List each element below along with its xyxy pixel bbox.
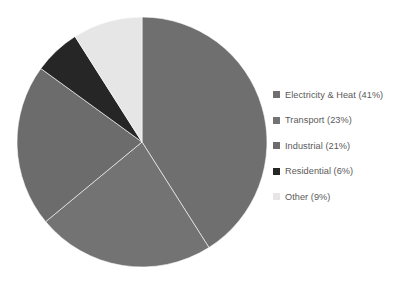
legend-swatch-residential xyxy=(273,168,280,175)
legend-item-residential: Residential (6%) xyxy=(273,159,413,185)
legend-item-transport: Transport (23%) xyxy=(273,108,413,134)
legend-swatch-other xyxy=(273,193,280,200)
pie-chart-plot-area xyxy=(0,0,285,283)
pie-chart-svg xyxy=(0,0,285,283)
legend-label-electricity-heat: Electricity & Heat (41%) xyxy=(285,90,383,100)
legend-item-electricity-heat: Electricity & Heat (41%) xyxy=(273,82,413,108)
legend-label-transport: Transport (23%) xyxy=(285,115,352,125)
legend-swatch-transport xyxy=(273,117,280,124)
legend-label-industrial: Industrial (21%) xyxy=(285,141,350,151)
legend-label-other: Other (9%) xyxy=(285,192,330,202)
legend-swatch-electricity-heat xyxy=(273,91,280,98)
pie-slice-group xyxy=(17,17,267,267)
legend-item-other: Other (9%) xyxy=(273,184,413,210)
pie-chart-screenshot: Electricity & Heat (41%) Transport (23%)… xyxy=(0,0,413,283)
legend-label-residential: Residential (6%) xyxy=(285,166,353,176)
chart-legend: Electricity & Heat (41%) Transport (23%)… xyxy=(273,82,413,210)
legend-item-industrial: Industrial (21%) xyxy=(273,133,413,159)
legend-swatch-industrial xyxy=(273,142,280,149)
